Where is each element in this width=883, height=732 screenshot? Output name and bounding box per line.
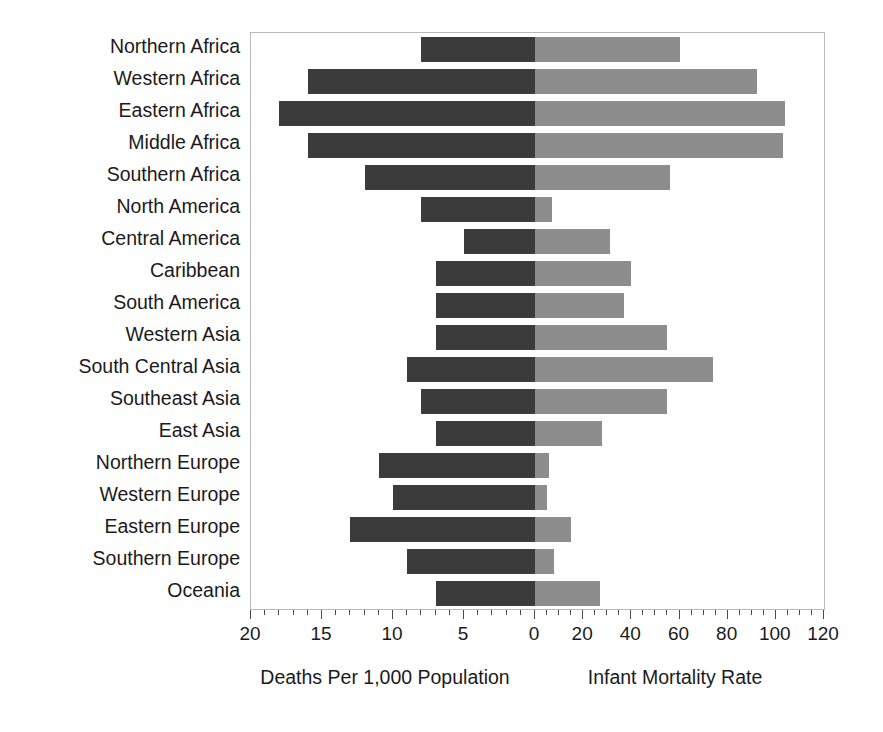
bar-deaths-per-1000 xyxy=(365,165,535,190)
bar-infant-mortality-rate xyxy=(535,325,667,350)
axis-tick-minor xyxy=(420,610,421,615)
axis-tick-minor xyxy=(763,610,764,615)
bar-infant-mortality-rate xyxy=(535,517,571,542)
bar-infant-mortality-rate xyxy=(535,229,610,254)
axis-tick-minor xyxy=(787,610,788,615)
axis-tick-label: 40 xyxy=(620,624,641,643)
bar-row xyxy=(251,37,824,62)
axis-tick-minor xyxy=(751,610,752,615)
bar-deaths-per-1000 xyxy=(407,357,535,382)
bar-deaths-per-1000 xyxy=(421,197,535,222)
category-label: Western Europe xyxy=(2,485,240,505)
axis-tick-minor xyxy=(618,610,619,615)
bar-infant-mortality-rate xyxy=(535,485,547,510)
axis-tick-minor xyxy=(811,610,812,615)
axis-tick-minor xyxy=(666,610,667,615)
axis-tick-major xyxy=(775,610,776,619)
axis-tick-minor xyxy=(435,610,436,615)
category-label: Central America xyxy=(2,229,240,249)
axis-tick-minor xyxy=(449,610,450,615)
axis-tick-major xyxy=(463,610,464,619)
axis-tick-label: 5 xyxy=(458,624,469,643)
axis-tick-minor xyxy=(307,610,308,615)
axis-titles: Deaths Per 1,000 Population Infant Morta… xyxy=(0,668,883,698)
axis-tick-major xyxy=(823,610,824,619)
bar-deaths-per-1000 xyxy=(421,389,535,414)
bar-deaths-per-1000 xyxy=(393,485,535,510)
category-label: Eastern Africa xyxy=(2,101,240,121)
axis-tick-minor xyxy=(477,610,478,615)
axis-tick-minor xyxy=(558,610,559,615)
axis-title-right: Infant Mortality Rate xyxy=(588,668,763,688)
axis-tick-major xyxy=(534,610,535,619)
axis-tick-label: 100 xyxy=(759,624,791,643)
value-axis-tick-labels: 2015105020406080100120 xyxy=(0,624,883,652)
axis-tick-minor xyxy=(570,610,571,615)
axis-tick-label: 80 xyxy=(716,624,737,643)
bar-infant-mortality-rate xyxy=(535,197,552,222)
category-label: Southern Europe xyxy=(2,549,240,569)
bar-infant-mortality-rate xyxy=(535,293,624,318)
bar-row xyxy=(251,293,824,318)
axis-tick-minor xyxy=(715,610,716,615)
axis-tick-label: 10 xyxy=(381,624,402,643)
axis-tick-minor xyxy=(594,610,595,615)
axis-tick-label: 60 xyxy=(668,624,689,643)
axis-tick-minor xyxy=(335,610,336,615)
axis-tick-label: 0 xyxy=(529,624,540,643)
bar-row xyxy=(251,389,824,414)
category-label: Eastern Europe xyxy=(2,517,240,537)
chart-container: Northern AfricaWestern AfricaEastern Afr… xyxy=(0,0,883,732)
bar-infant-mortality-rate xyxy=(535,453,549,478)
category-label: East Asia xyxy=(2,421,240,441)
axis-tick-minor xyxy=(654,610,655,615)
bar-deaths-per-1000 xyxy=(436,261,535,286)
bar-row xyxy=(251,229,824,254)
axis-tick-minor xyxy=(606,610,607,615)
category-label: Southern Africa xyxy=(2,165,240,185)
bars-layer xyxy=(251,33,824,609)
category-label: South Central Asia xyxy=(2,357,240,377)
axis-tick-minor xyxy=(703,610,704,615)
bar-row xyxy=(251,101,824,126)
axis-tick-label: 20 xyxy=(239,624,260,643)
axis-tick-minor xyxy=(691,610,692,615)
bar-row xyxy=(251,325,824,350)
bar-row xyxy=(251,485,824,510)
axis-tick-minor xyxy=(506,610,507,615)
bar-infant-mortality-rate xyxy=(535,261,631,286)
bar-row xyxy=(251,197,824,222)
bar-row xyxy=(251,453,824,478)
value-axis-ticks xyxy=(250,610,825,620)
category-label: Western Africa xyxy=(2,69,240,89)
axis-tick-minor xyxy=(264,610,265,615)
axis-tick-minor xyxy=(364,610,365,615)
category-label: Caribbean xyxy=(2,261,240,281)
bar-infant-mortality-rate xyxy=(535,165,670,190)
category-label: Middle Africa xyxy=(2,133,240,153)
axis-title-left: Deaths Per 1,000 Population xyxy=(260,668,509,688)
axis-tick-label: 20 xyxy=(572,624,593,643)
category-label: Western Asia xyxy=(2,325,240,345)
axis-tick-major xyxy=(630,610,631,619)
bar-deaths-per-1000 xyxy=(436,421,535,446)
bar-deaths-per-1000 xyxy=(464,229,535,254)
axis-tick-major xyxy=(392,610,393,619)
category-axis-labels: Northern AfricaWestern AfricaEastern Afr… xyxy=(0,32,244,610)
axis-tick-minor xyxy=(546,610,547,615)
category-label: Northern Africa xyxy=(2,37,240,57)
axis-tick-minor xyxy=(293,610,294,615)
bar-row xyxy=(251,421,824,446)
bar-row xyxy=(251,261,824,286)
bar-row xyxy=(251,549,824,574)
bar-deaths-per-1000 xyxy=(379,453,535,478)
bar-infant-mortality-rate xyxy=(535,549,554,574)
bar-infant-mortality-rate xyxy=(535,101,785,126)
axis-tick-minor xyxy=(491,610,492,615)
bar-deaths-per-1000 xyxy=(350,517,535,542)
axis-tick-major xyxy=(250,610,251,619)
bar-deaths-per-1000 xyxy=(421,37,535,62)
bar-infant-mortality-rate xyxy=(535,421,602,446)
bar-deaths-per-1000 xyxy=(407,549,535,574)
bar-infant-mortality-rate xyxy=(535,133,783,158)
